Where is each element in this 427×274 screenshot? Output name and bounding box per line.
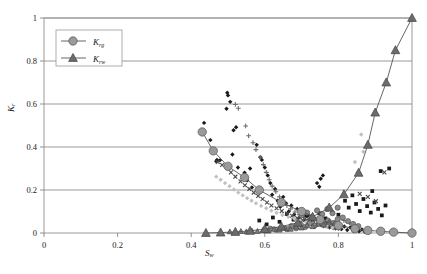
series-marker-Krg	[198, 128, 206, 136]
x-tick-label-2: 0.4	[186, 240, 197, 250]
y-axis-label: Kr	[6, 104, 16, 112]
y-tick-label-4: 0.8	[26, 56, 37, 66]
series-marker-Krg	[209, 147, 217, 155]
series-marker-Krg	[255, 186, 263, 194]
y-tick-label-1: 0.2	[26, 185, 37, 195]
scatter-point	[343, 199, 347, 203]
x-tick-label-5: 1	[410, 240, 414, 250]
scatter-point	[337, 213, 341, 217]
scatter-point	[340, 215, 345, 220]
legend-marker-0	[69, 37, 77, 45]
scatter-point	[384, 204, 388, 208]
x-tick-label-0: 0	[42, 240, 46, 250]
scatter-point	[354, 202, 358, 206]
scatter-point	[314, 208, 319, 213]
y-tick-label-2: 0.4	[26, 142, 37, 152]
scatter-point	[370, 189, 374, 193]
scatter-point	[362, 197, 366, 201]
scatter-point	[257, 219, 261, 223]
scatter-point	[271, 216, 275, 220]
series-marker-Krg	[297, 207, 305, 215]
y-tick-label-0: 0	[33, 228, 37, 238]
scatter-point	[345, 219, 350, 224]
scatter-point	[351, 194, 355, 198]
series-marker-Krw	[408, 13, 417, 21]
scatter-point	[335, 205, 340, 210]
scatter-point	[365, 204, 369, 208]
scatter-point	[387, 167, 391, 171]
series-marker-Krg	[408, 229, 416, 237]
legend-box	[56, 30, 122, 66]
scatter-point	[380, 214, 384, 218]
series-marker-Krg	[377, 227, 385, 235]
series-marker-Krg	[240, 173, 248, 181]
scatter-point	[379, 169, 383, 173]
series-marker-Krg	[334, 221, 342, 229]
series-marker-Krg	[224, 162, 232, 170]
series-marker-Krg	[389, 228, 397, 236]
y-tick-label-3: 0.6	[26, 99, 37, 109]
x-tick-label-1: 0.2	[112, 240, 123, 250]
scatter-point	[347, 206, 351, 210]
series-marker-Krg	[277, 198, 285, 206]
series-marker-Krg	[364, 226, 372, 234]
y-tick-label-5: 1	[33, 13, 37, 23]
scatter-point	[376, 207, 380, 211]
relative-permeability-scatter-plot: 00.20.40.60.8100.20.40.60.81KrgKrw	[0, 0, 427, 274]
series-marker-Krg	[351, 225, 359, 233]
scatter-point	[369, 211, 373, 215]
series-marker-Krg	[316, 215, 324, 223]
scatter-point	[358, 209, 362, 213]
chart-figure: 00.20.40.60.8100.20.40.60.81KrgKrw Kr Sw	[0, 0, 427, 274]
x-tick-label-3: 0.6	[259, 240, 270, 250]
x-tick-label-4: 0.8	[333, 240, 344, 250]
x-axis-label: Sw	[205, 248, 214, 258]
